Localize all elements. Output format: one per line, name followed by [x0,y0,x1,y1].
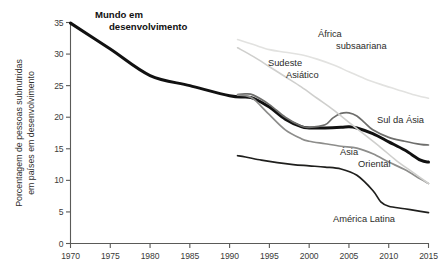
y-tick-label: 15 [54,144,64,154]
series-line-am-rica-latina [238,156,429,213]
y-tick-label: 30 [54,49,64,59]
x-tick-label: 2010 [379,251,398,261]
data-series-lines [71,23,429,212]
series-annotations: Mundo emdesenvolvimentoÁfricasubsaariana… [95,9,425,224]
y-tick-label: 20 [54,112,64,122]
label-sul-da-asia: Sul da Ásia [377,115,425,125]
x-tick-label: 1990 [220,251,239,261]
y-tick-label: 10 [54,175,64,185]
x-tick-label: 1995 [260,251,279,261]
label-america-latina: América Latina [333,214,396,224]
chart-plot-area: 05101520253035 1970197519801985199019952… [0,0,445,274]
label-africa-subsaariana: Áfricasubsaariana [318,29,387,51]
x-tick-label: 1970 [61,251,80,261]
x-tick-label: 1975 [101,251,120,261]
series-line-frica-subsaariana [238,40,429,99]
y-tick-label: 35 [54,18,64,28]
y-axis-title-line-1: Porcentagem de pessoas subnutridas [14,59,24,207]
x-tick-label: 2000 [300,251,319,261]
label-mundo-em-desenvolvimento: Mundo emdesenvolvimento [95,9,188,32]
series-line-sia-oriental [238,95,429,183]
y-axis-title: Porcentagem de pessoas subnutridasem paí… [14,59,36,207]
x-tick-label: 1985 [180,251,199,261]
x-axis-ticks: 1970197519801985199019952000200520102015 [61,244,438,261]
y-axis-ticks: 05101520253035 [54,18,70,249]
x-tick-label: 2015 [419,251,438,261]
x-tick-label: 2005 [340,251,359,261]
label-sudeste-asiatico: SudesteAsiático [268,58,319,80]
y-axis-title-line-2: em países em desenvolvimento [26,71,36,195]
y-tick-label: 0 [59,239,64,249]
x-tick-label: 1980 [141,251,160,261]
y-tick-label: 5 [59,207,64,217]
chart-container: 05101520253035 1970197519801985199019952… [0,0,445,274]
y-tick-label: 25 [54,81,64,91]
